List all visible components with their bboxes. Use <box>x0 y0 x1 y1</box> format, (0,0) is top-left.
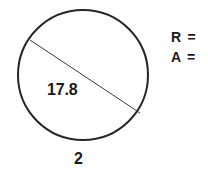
answers-block: R = A = <box>171 30 197 64</box>
chord-length-label: 17.8 <box>47 82 77 98</box>
geometry-worksheet-figure: 17.8 2 R = A = <box>0 0 208 174</box>
circle-diagram <box>0 0 208 174</box>
radius-answer-label: R = <box>171 30 197 44</box>
area-answer-label: A = <box>171 50 197 64</box>
figure-number-label: 2 <box>74 151 83 167</box>
chord-line <box>30 40 140 113</box>
